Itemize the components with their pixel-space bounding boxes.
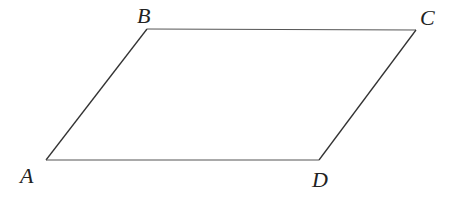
vertex-label-a: A (18, 163, 34, 188)
vertex-label-c: C (420, 5, 435, 30)
vertex-label-b: B (137, 3, 150, 28)
edge-bc (147, 29, 416, 30)
parallelogram-diagram: A B C D (0, 0, 454, 206)
vertex-label-d: D (311, 167, 328, 192)
edge-cd (319, 30, 416, 160)
edge-ab (46, 29, 147, 160)
